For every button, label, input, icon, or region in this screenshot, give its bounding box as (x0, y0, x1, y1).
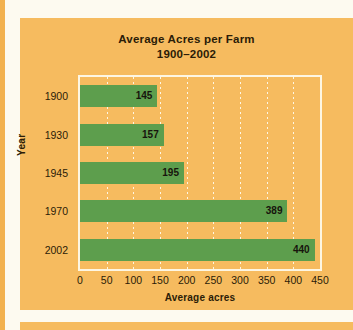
y-axis-title: Year (16, 134, 27, 156)
y-axis-tick-label: 1930 (45, 124, 68, 146)
x-axis-tick-label: 450 (300, 274, 340, 286)
y-axis-tick-label: 2002 (45, 239, 68, 261)
plot-wrapper: 19001930194519702002 Year 14515719538944… (20, 18, 353, 310)
bar-value-label: 157 (80, 124, 164, 146)
bar-value-label: 389 (80, 200, 287, 222)
y-axis-tick-label: 1945 (45, 162, 68, 184)
chart-page: Average Acres per Farm 1900–2002 1900193… (0, 0, 353, 330)
y-axis-tick-label: 1970 (45, 200, 68, 222)
bar-series: 145157195389440 (80, 77, 320, 269)
plot-area: 145157195389440 (78, 75, 322, 271)
y-axis-tick-labels: 19001930194519702002 (20, 75, 74, 271)
bar-value-label: 145 (80, 85, 157, 107)
bar-value-label: 195 (80, 162, 184, 184)
bar-value-label: 440 (80, 239, 315, 261)
next-panel-edge (20, 322, 353, 330)
x-axis-title: Average acres (78, 292, 322, 303)
left-margin-strip (0, 0, 5, 330)
chart-panel: Average Acres per Farm 1900–2002 1900193… (20, 18, 353, 310)
y-axis-tick-label: 1900 (45, 85, 68, 107)
x-axis-tick-labels: 050100150200250300350400450 (78, 274, 322, 290)
